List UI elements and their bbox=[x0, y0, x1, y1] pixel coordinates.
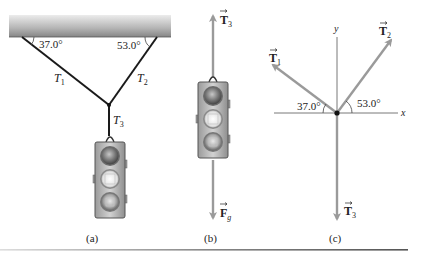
caption-b: (b) bbox=[204, 232, 217, 245]
origin-point bbox=[334, 110, 339, 115]
force-label-fg: Fg bbox=[220, 203, 231, 223]
tension-label-t2: T2 bbox=[137, 71, 148, 87]
x-axis-label: x bbox=[400, 107, 406, 118]
force-label-t3: T3 bbox=[220, 10, 232, 30]
traffic-light-b bbox=[196, 77, 230, 158]
panel-c: x y 37.0° 53.0° T1 T2 T3 (c) bbox=[269, 22, 406, 246]
tension-label-t1: T1 bbox=[54, 71, 65, 87]
angle-t2-label: 53.0° bbox=[357, 97, 381, 109]
vector-label-t2: T2 bbox=[379, 22, 391, 41]
angle-right-label: 53.0° bbox=[117, 39, 141, 51]
vector-label-t3: T3 bbox=[344, 202, 356, 221]
svg-text:T1: T1 bbox=[269, 51, 281, 67]
traffic-light-a bbox=[93, 137, 127, 218]
rope-t1 bbox=[22, 37, 109, 105]
figure-canvas: 37.0° 53.0° T1 T2 T3 (a) T3 Fg (b) bbox=[0, 0, 421, 258]
panel-b: T3 Fg (b) bbox=[196, 10, 232, 246]
vector-label-t1: T1 bbox=[269, 49, 281, 68]
angle-t1-label: 37.0° bbox=[297, 100, 321, 112]
tension-label-t3: T3 bbox=[113, 113, 124, 129]
caption-c: (c) bbox=[329, 232, 342, 245]
panel-a: 37.0° 53.0° T1 T2 T3 (a) bbox=[9, 15, 171, 245]
ceiling bbox=[9, 15, 171, 37]
y-axis-label: y bbox=[333, 23, 339, 34]
knot bbox=[107, 103, 111, 107]
bottom-rule bbox=[0, 249, 408, 251]
caption-a: (a) bbox=[86, 232, 99, 245]
svg-text:T2: T2 bbox=[379, 24, 391, 40]
svg-text:Fg: Fg bbox=[220, 206, 231, 222]
angle-left-label: 37.0° bbox=[39, 38, 63, 50]
svg-text:T3: T3 bbox=[220, 13, 232, 29]
svg-text:T3: T3 bbox=[344, 204, 356, 220]
